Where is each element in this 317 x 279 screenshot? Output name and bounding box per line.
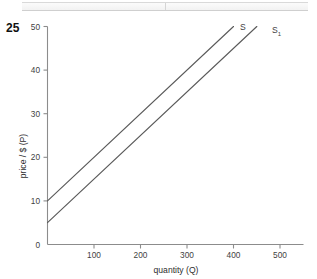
page-top-rule-tick (165, 3, 166, 10)
y-tick-label-10: 10 (31, 196, 41, 206)
y-tick-label-30: 30 (31, 109, 41, 119)
series-label-s: S (240, 22, 246, 32)
y-tick-label-0: 0 (35, 240, 40, 250)
x-axis-ticks (94, 245, 280, 249)
y-tick-label-20: 20 (31, 152, 41, 162)
y-tick-label-40: 40 (31, 65, 41, 75)
y-axis-title: price / $ (P) (18, 134, 28, 179)
y-axis-ticks (44, 27, 48, 201)
y-axis-title-text: price / $ (P) (18, 134, 28, 179)
series-label-s-text: S (240, 22, 246, 32)
x-axis-title-text: quantity (Q) (154, 265, 199, 275)
x-tick-label-300: 300 (180, 250, 194, 260)
page-top-rule (22, 2, 308, 11)
supply-curve-s1 (48, 27, 257, 223)
y-tick-label-50: 50 (31, 22, 41, 32)
x-tick-label-200: 200 (134, 250, 148, 260)
x-tick-label-400: 400 (227, 250, 241, 260)
supply-curve-s (48, 27, 234, 201)
x-tick-label-500: 500 (273, 250, 287, 260)
supply-curve-chart: 50 40 30 20 10 0 100 200 300 400 500 S S… (0, 12, 317, 279)
x-axis-title: quantity (Q) (154, 265, 199, 275)
series-label-s1: S1 (272, 25, 282, 37)
series-label-s1-subscript: 1 (278, 31, 282, 37)
x-tick-label-100: 100 (87, 250, 101, 260)
